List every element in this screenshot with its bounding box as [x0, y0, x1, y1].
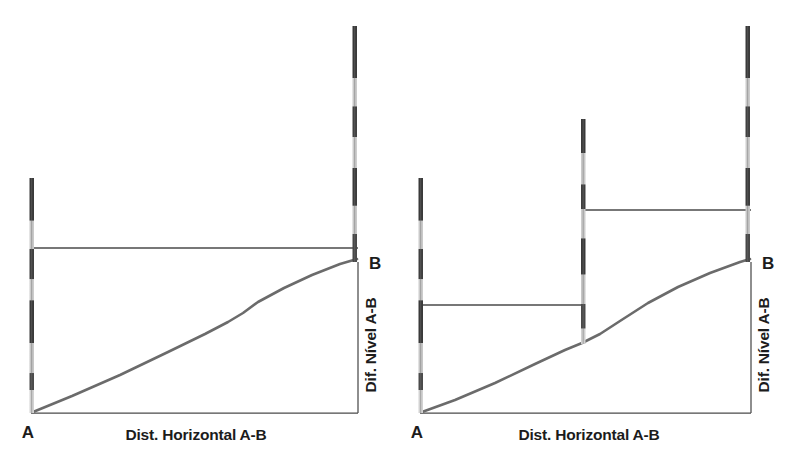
right-panel-group: A B Dist. Horizontal A-B Dif. Nível A-B [411, 26, 774, 443]
left-y-axis-label: Dif. Nível A-B [362, 298, 379, 393]
left-x-axis-label: Dist. Horizontal A-B [126, 426, 267, 443]
right-y-axis-label: Dif. Nível A-B [755, 298, 772, 393]
left-label-a: A [22, 423, 34, 442]
leveling-diagrams-svg: A B Dist. Horizontal A-B Dif. Nível A-B [0, 0, 808, 465]
right-label-b: B [762, 254, 774, 273]
left-label-b: B [369, 254, 381, 273]
right-terrain-profile [422, 259, 750, 412]
right-x-axis-label: Dist. Horizontal A-B [519, 426, 660, 443]
left-terrain-profile [33, 259, 357, 412]
right-label-a: A [411, 423, 423, 442]
figure-root: A B Dist. Horizontal A-B Dif. Nível A-B [0, 0, 808, 465]
left-panel-group: A B Dist. Horizontal A-B Dif. Nível A-B [22, 26, 381, 443]
